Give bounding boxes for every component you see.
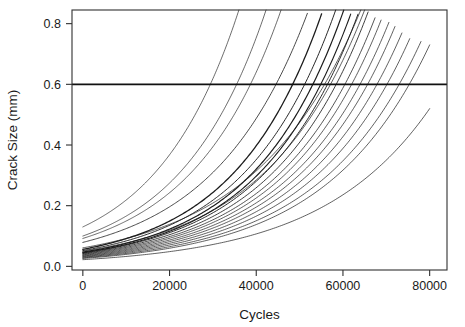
x-axis-title: Cycles	[239, 307, 280, 322]
crack-growth-curve	[83, 10, 239, 227]
crack-growth-curve	[83, 14, 351, 253]
y-tick-label: 0.0	[44, 260, 61, 274]
plot-frame	[72, 10, 447, 270]
y-axis-tick-labels: 0.00.20.40.60.8	[44, 17, 61, 274]
crack-growth-curve	[83, 109, 430, 260]
x-axis-ticks	[83, 270, 430, 276]
y-tick-label: 0.4	[44, 139, 61, 153]
y-axis-title: Crack Size (mm)	[5, 90, 20, 191]
crack-growth-curve	[83, 10, 361, 248]
crack-growth-figure: 020000400006000080000 0.00.20.40.60.8 Cy…	[0, 0, 465, 327]
y-tick-label: 0.6	[44, 78, 61, 92]
crack-growth-curve	[83, 13, 308, 242]
crack-growth-curve	[83, 45, 430, 259]
x-tick-label: 0	[79, 279, 86, 293]
crack-growth-curve	[83, 39, 410, 258]
crack-growth-curve	[83, 22, 389, 255]
y-axis-ticks	[66, 24, 72, 267]
x-tick-label: 60000	[326, 279, 361, 293]
y-tick-label: 0.8	[44, 17, 61, 31]
y-tick-label: 0.2	[44, 199, 61, 213]
crack-growth-curves	[83, 10, 430, 260]
crack-growth-curve	[83, 18, 375, 254]
crack-growth-curve	[83, 10, 281, 238]
crack-growth-chart: 020000400006000080000 0.00.20.40.60.8 Cy…	[0, 0, 465, 327]
x-axis-tick-labels: 020000400006000080000	[79, 279, 447, 293]
x-tick-label: 20000	[152, 279, 187, 293]
crack-growth-curve	[83, 10, 266, 236]
x-tick-label: 80000	[412, 279, 447, 293]
x-tick-label: 40000	[239, 279, 274, 293]
